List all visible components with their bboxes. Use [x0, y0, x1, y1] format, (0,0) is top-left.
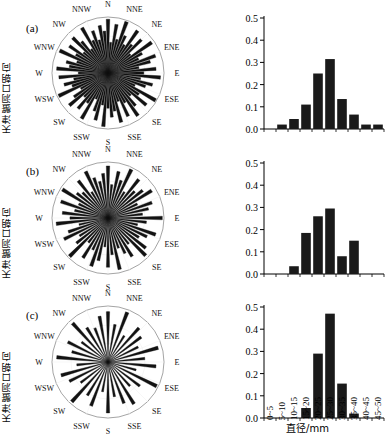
rose-svg-b: [24, 147, 192, 289]
rose-diagram-b: NNNENEENEEESESESSESSSWSWWSWWWNWNWNNW: [24, 147, 192, 289]
histogram-bar: [337, 99, 347, 129]
x-tick-label: 5~10: [277, 402, 287, 420]
histogram-bar: [337, 256, 347, 274]
histogram-bar: [349, 241, 359, 274]
compass-label-e: E: [175, 69, 180, 78]
histogram-bar: [325, 59, 335, 129]
histogram-bar: [325, 209, 335, 274]
compass-label-nne: NNE: [126, 294, 142, 303]
compass-label-w: W: [35, 69, 43, 78]
compass-label-sw: SW: [53, 117, 65, 126]
y-tick-label: 0.2: [246, 368, 259, 379]
x-tick-label: 0~5: [265, 406, 275, 420]
compass-label-n: N: [105, 289, 111, 298]
compass-label-wsw: WSW: [34, 384, 54, 393]
histogram-e: 蟹洞直径分布频率 (e) 0.00.10.20.30.40.5: [228, 145, 387, 290]
x-tick-label: 45~50: [373, 397, 383, 420]
y-tick-label: 0.3: [246, 346, 259, 357]
rose-diagram-a: NNNENEENEEESESESSESSSWSWWSWWWNWNWNNW: [24, 2, 192, 144]
compass-label-sse: SSE: [127, 421, 141, 430]
compass-label-sw: SW: [53, 262, 65, 271]
compass-label-w: W: [35, 214, 43, 223]
compass-label-ne: NE: [151, 165, 162, 174]
y-tick-label: 0.2: [246, 224, 259, 235]
rose-y-axis-label-a: 天津蟹洞口朝向: [2, 16, 12, 134]
compass-label-wnw: WNW: [34, 187, 55, 196]
compass-label-ne: NE: [151, 20, 162, 29]
compass-label-nnw: NNW: [72, 5, 91, 14]
compass-label-n: N: [105, 0, 111, 9]
compass-label-nne: NNE: [126, 150, 142, 159]
compass-label-wsw: WSW: [34, 95, 54, 104]
x-tick-label: 10~15: [289, 397, 299, 420]
panel-row-b: 天津蟹洞口朝向 (b) NNNENEENEEESESESSESSSWSWWSWW…: [0, 145, 387, 290]
y-tick-label: 0.5: [246, 302, 259, 313]
compass-label-ese: ESE: [165, 384, 179, 393]
compass-label-ne: NE: [151, 309, 162, 318]
x-tick-label: 15~20: [301, 397, 311, 420]
y-tick-label: 0.2: [246, 79, 259, 90]
x-tick-label: 25~30: [325, 397, 335, 420]
compass-label-ssw: SSW: [73, 421, 89, 430]
compass-label-nnw: NNW: [72, 150, 91, 159]
x-tick-label: 35~40: [349, 397, 359, 420]
rose-y-axis-label-b: 天津蟹洞口朝向: [2, 161, 12, 279]
compass-label-nne: NNE: [126, 5, 142, 14]
compass-label-wnw: WNW: [34, 331, 55, 340]
compass-label-n: N: [105, 145, 111, 154]
rose-svg-c: [24, 291, 192, 433]
y-tick-label: 0.1: [246, 101, 259, 112]
compass-label-nw: NW: [53, 309, 66, 318]
compass-label-se: SE: [152, 262, 161, 271]
compass-label-nw: NW: [53, 20, 66, 29]
compass-label-sse: SSE: [127, 132, 141, 141]
x-tick-label: 30~35: [337, 397, 347, 420]
compass-label-e: E: [175, 358, 180, 367]
compass-label-sw: SW: [53, 406, 65, 415]
compass-label-wnw: WNW: [34, 42, 55, 51]
compass-label-ene: ENE: [164, 187, 180, 196]
y-tick-label: 0.3: [246, 57, 259, 68]
y-tick-label: 0.0: [246, 269, 259, 280]
y-tick-label: 0.5: [246, 158, 259, 169]
compass-label-nw: NW: [53, 165, 66, 174]
rose-svg-a: [24, 2, 192, 144]
histogram-bar: [361, 125, 371, 129]
compass-label-ssw: SSW: [73, 132, 89, 141]
y-tick-label: 0.5: [246, 13, 259, 24]
compass-label-s: S: [106, 427, 110, 434]
y-tick-label: 0.4: [246, 180, 259, 191]
histogram-d: 蟹洞直径分布频率 (d) 0.00.10.20.30.40.5: [228, 0, 387, 145]
y-tick-label: 0.1: [246, 246, 259, 257]
compass-label-ene: ENE: [164, 331, 180, 340]
compass-label-ese: ESE: [165, 95, 179, 104]
histogram-bar: [301, 233, 311, 274]
compass-label-w: W: [35, 358, 43, 367]
y-tick-label: 0.0: [246, 124, 259, 135]
compass-label-sse: SSE: [127, 277, 141, 286]
y-tick-label: 0.4: [246, 35, 259, 46]
compass-label-e: E: [175, 214, 180, 223]
histogram-bar: [349, 115, 359, 129]
compass-label-ese: ESE: [165, 240, 179, 249]
compass-label-wsw: WSW: [34, 240, 54, 249]
histogram-bar: [289, 266, 299, 274]
histogram-bar: [313, 74, 323, 130]
histogram-bar: [313, 216, 323, 274]
panel-row-a: 天津蟹洞口朝向 (a) NNNENEENEEESESESSESSSWSWWSWW…: [0, 0, 387, 145]
y-tick-label: 0.3: [246, 202, 259, 213]
compass-label-nnw: NNW: [72, 294, 91, 303]
compass-label-ssw: SSW: [73, 277, 89, 286]
x-axis-tick-labels: 0~55~1010~1515~2020~2525~3030~3535~4040~…: [228, 386, 387, 420]
figure-root: 天津蟹洞口朝向 (a) NNNENEENEEESESESSESSSWSWWSWW…: [0, 0, 387, 434]
y-tick-label: 0.4: [246, 324, 259, 335]
x-tick-label: 40~45: [361, 397, 371, 420]
compass-label-ene: ENE: [164, 42, 180, 51]
rose-y-axis-label-c: 天津蟹洞口朝向: [2, 305, 12, 423]
histogram-bar: [277, 125, 287, 129]
histogram-bar: [289, 119, 299, 129]
x-axis-title: 直径/mm: [228, 420, 387, 434]
compass-label-se: SE: [152, 406, 161, 415]
histogram-bar: [373, 125, 383, 129]
histogram-bar: [301, 105, 311, 129]
